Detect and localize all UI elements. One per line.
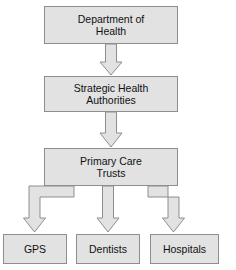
- arrow-pct-to-dentists: [97, 186, 119, 232]
- node-label-hospitals: Hospitals: [160, 243, 209, 255]
- node-strategic-health-authorities[interactable]: Strategic Health Authorities: [44, 76, 178, 112]
- node-label-gps: GPS: [21, 243, 49, 255]
- arrow-pct-to-gps: [24, 186, 75, 232]
- arrow-sha-to-pct: [100, 112, 122, 147]
- arrow-doh-to-sha: [100, 44, 122, 75]
- node-label-strategic-health-authorities: Strategic Health Authorities: [71, 82, 152, 107]
- node-primary-care-trusts[interactable]: Primary Care Trusts: [44, 148, 178, 186]
- node-label-primary-care-trusts: Primary Care Trusts: [77, 155, 145, 180]
- node-label-department-of-health: Department of Health: [75, 13, 148, 38]
- node-department-of-health[interactable]: Department of Health: [44, 6, 178, 44]
- org-chart-diagram: Department of Health Strategic Health Au…: [0, 0, 236, 270]
- node-dentists[interactable]: Dentists: [76, 234, 140, 264]
- node-gps[interactable]: GPS: [3, 234, 67, 264]
- node-hospitals[interactable]: Hospitals: [150, 234, 219, 264]
- arrow-pct-to-hospitals: [148, 186, 185, 232]
- node-label-dentists: Dentists: [86, 243, 130, 255]
